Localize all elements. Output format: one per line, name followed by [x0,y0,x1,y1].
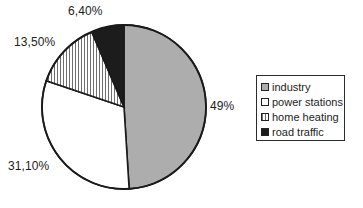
legend-label-power-stations: power stations [272,97,343,108]
white-swatch-icon [261,98,269,106]
legend-item-industry: industry [261,80,341,94]
pie-chart-figure: 6,40% 13,50% 31,10% 49% industry power s… [0,0,363,208]
legend-item-power-stations: power stations [261,95,341,109]
slice-label-road-traffic: 6,40% [68,5,103,17]
pie-slice-industry [124,25,206,189]
slice-label-home-heating: 13,50% [14,36,55,48]
slice-label-industry: 49% [210,100,234,112]
black-solid-swatch-icon [261,128,269,136]
legend-label-road-traffic: road traffic [272,127,324,138]
legend-item-road-traffic: road traffic [261,125,341,139]
vertical-hatch-swatch-icon [261,113,269,121]
slice-label-power-stations: 31,10% [8,160,49,172]
legend-item-home-heating: home heating [261,110,341,124]
gray-solid-swatch-icon [261,83,269,91]
legend-label-industry: industry [272,82,311,93]
legend-label-home-heating: home heating [272,112,339,123]
chart-legend: industry power stations home heating roa… [256,75,345,141]
